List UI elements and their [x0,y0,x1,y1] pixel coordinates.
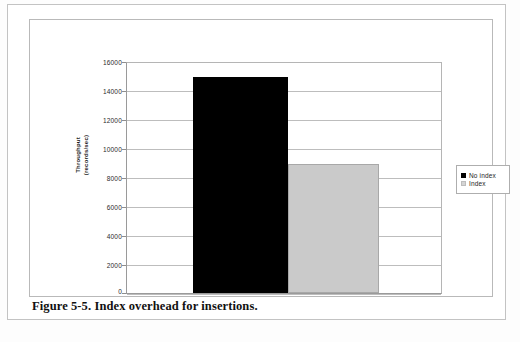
page-border: 16000 14000 12000 10000 8000 6000 4000 2… [7,4,506,320]
y-tick-label: 14000 [103,88,122,95]
scanned-page: 16000 14000 12000 10000 8000 6000 4000 2… [0,0,520,342]
y-axis-title: Throughput (records/sec) [74,120,90,190]
legend-label: Index [469,180,486,187]
bar-index[interactable] [288,164,379,293]
chart-frame: 16000 14000 12000 10000 8000 6000 4000 2… [29,19,493,297]
legend-label: No index [469,172,496,179]
y-tick-label: 4000 [107,233,122,240]
legend-item-no-index[interactable]: No index [461,172,506,179]
legend-swatch-icon [461,173,466,178]
y-axis-title-line1: Throughput [74,120,82,190]
figure-caption: Figure 5-5. Index overhead for insertion… [32,299,258,314]
y-tick-label: 2000 [107,262,122,269]
y-tick-label: 12000 [103,117,122,124]
plot-area [126,62,442,294]
y-axis-title-line2: (records/sec) [82,120,90,190]
gridline [127,294,441,295]
y-tick-label: 6000 [107,204,122,211]
y-tick-label: 10000 [103,146,122,153]
legend-item-index[interactable]: Index [461,180,506,187]
y-tick-label: 8000 [107,175,122,182]
legend-swatch-icon [461,181,466,186]
y-tick-label: 16000 [103,59,122,66]
legend: No index Index [456,165,510,194]
bar-no-index[interactable] [193,77,288,293]
